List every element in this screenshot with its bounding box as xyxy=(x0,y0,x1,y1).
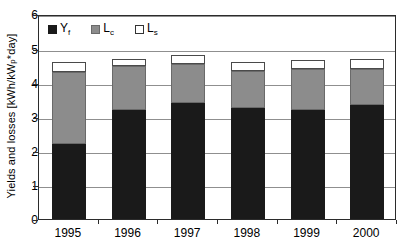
bar-segment-Lc-1996 xyxy=(112,66,146,110)
legend-label-Lc: Lc xyxy=(103,22,114,37)
bar-group-1995 xyxy=(52,14,86,219)
y-tick-mark-0 xyxy=(33,220,38,221)
bar-segment-Lc-2000 xyxy=(350,69,384,105)
legend-label-Ls: Ls xyxy=(147,22,158,37)
x-tick-mark-4 xyxy=(277,220,278,224)
bar-group-1996 xyxy=(112,14,146,219)
bar-group-2000 xyxy=(350,14,384,219)
bar-segment-Ls-2000 xyxy=(350,59,384,69)
legend-item-Ls[interactable]: Ls xyxy=(135,22,158,37)
x-tick-mark-5 xyxy=(336,220,337,224)
x-tick-mark-1 xyxy=(98,220,99,224)
bar-segment-Yf-1997 xyxy=(171,103,205,219)
bar-segment-Yf-1999 xyxy=(291,110,325,219)
bar-segment-Ls-1996 xyxy=(112,59,146,66)
bar-group-1998 xyxy=(231,14,265,219)
bar-segment-Lc-1998 xyxy=(231,71,265,109)
x-tick-label-2000: 2000 xyxy=(353,226,380,240)
bar-segment-Ls-1999 xyxy=(291,60,325,69)
bar-segment-Lc-1995 xyxy=(52,72,86,144)
legend-swatch-Ls xyxy=(135,25,144,34)
x-tick-label-1998: 1998 xyxy=(233,226,260,240)
legend-swatch-Lc xyxy=(91,25,100,34)
bar-segment-Ls-1995 xyxy=(52,62,86,72)
bar-group-1999 xyxy=(291,14,325,219)
bar-segment-Yf-2000 xyxy=(350,105,384,219)
legend-label-Yf: Yf xyxy=(60,22,70,37)
x-tick-label-1997: 1997 xyxy=(174,226,201,240)
chart-legend: YfLcLs xyxy=(48,22,158,37)
bar-segment-Ls-1998 xyxy=(231,62,265,71)
bar-segment-Ls-1997 xyxy=(171,55,205,64)
bars-layer xyxy=(39,16,395,219)
y-axis-ticks: 0123456 xyxy=(0,0,38,252)
legend-swatch-Yf xyxy=(48,25,57,34)
chart-figure: Yields and losses [kWh/kWp*day] 0123456 … xyxy=(0,0,401,252)
x-tick-mark-6 xyxy=(396,220,397,224)
plot-area xyxy=(38,15,396,220)
x-tick-label-1999: 1999 xyxy=(293,226,320,240)
x-tick-label-1995: 1995 xyxy=(54,226,81,240)
x-tick-mark-3 xyxy=(217,220,218,224)
x-tick-mark-2 xyxy=(157,220,158,224)
bar-segment-Lc-1997 xyxy=(171,64,205,103)
bar-segment-Yf-1995 xyxy=(52,144,86,219)
bar-segment-Yf-1996 xyxy=(112,110,146,219)
legend-item-Lc[interactable]: Lc xyxy=(91,22,114,37)
bar-segment-Yf-1998 xyxy=(231,108,265,219)
x-tick-label-1996: 1996 xyxy=(114,226,141,240)
bar-segment-Lc-1999 xyxy=(291,69,325,110)
legend-item-Yf[interactable]: Yf xyxy=(48,22,70,37)
bar-group-1997 xyxy=(171,14,205,219)
